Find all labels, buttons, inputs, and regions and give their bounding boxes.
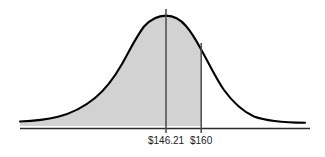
x-tick-label-mean: $146.21	[148, 135, 184, 146]
distribution-figure: $146.21 $160	[0, 0, 325, 157]
shaded-area-under-curve	[20, 16, 201, 126]
normal-curve-plot	[0, 0, 325, 157]
x-tick-label-value: $160	[190, 135, 212, 146]
